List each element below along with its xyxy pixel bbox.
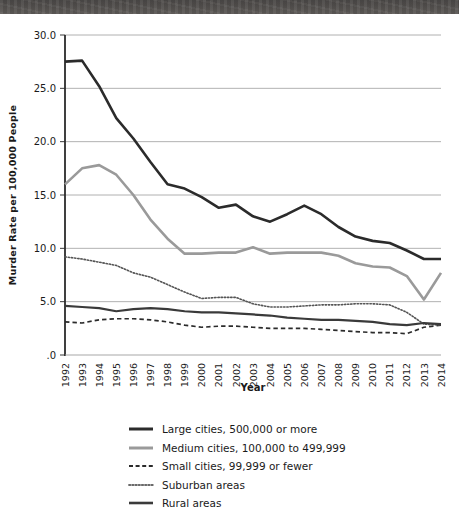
ytick-label-10.0: 10.0 [34,243,56,254]
xtick-label-2014: 2014 [436,363,447,387]
ytick-label-5.0: 5.0 [40,296,56,307]
ytick-label-30.0: 30.0 [34,30,56,41]
series-line-4 [65,306,441,325]
xtick-label-2007: 2007 [316,363,327,387]
xtick-label-2005: 2005 [282,363,293,387]
xtick-label-1994: 1994 [94,363,105,387]
xtick-label-2011: 2011 [384,363,395,387]
xtick-label-2010: 2010 [367,363,378,387]
xtick-label-2009: 2009 [350,363,361,387]
xtick-label-2001: 2001 [213,363,224,387]
xtick-label-2008: 2008 [333,363,344,387]
series-line-0 [65,61,441,259]
xtick-label-1996: 1996 [128,363,139,387]
legend-item: Large cities, 500,000 or more [128,420,428,439]
legend-line-icon [128,497,154,509]
xtick-label-2000: 2000 [196,363,207,387]
xtick-label-1993: 1993 [77,363,88,387]
xtick-label-2013: 2013 [419,363,430,387]
xtick-label-2012: 2012 [401,363,412,387]
ytick-label-.0: .0 [46,350,56,361]
legend-line-icon [128,479,154,491]
legend-item: Small cities, 99,999 or fewer [128,457,428,476]
legend-item-label: Medium cities, 100,000 to 499,999 [162,442,346,454]
xtick-label-1999: 1999 [179,363,190,387]
x-axis-title: Year [240,382,266,393]
legend-item-label: Rural areas [162,497,221,509]
chart-page: 30.025.020.015.010.05.0.0199219931994199… [0,0,459,531]
chart-legend: Large cities, 500,000 or moreMedium citi… [128,420,428,513]
legend-item-label: Large cities, 500,000 or more [162,423,317,435]
series-line-2 [65,319,441,334]
y-axis-title: Murder Rate per 100,000 People [7,105,18,285]
legend-item: Medium cities, 100,000 to 499,999 [128,439,428,458]
xtick-label-1997: 1997 [145,363,156,387]
chart-canvas: 30.025.020.015.010.05.0.0199219931994199… [0,16,459,396]
series-line-1 [65,165,441,299]
scan-artifact-band [0,0,459,14]
xtick-label-1995: 1995 [111,363,122,387]
legend-line-icon [128,460,154,472]
murder-rate-line-chart: 30.025.020.015.010.05.0.0199219931994199… [0,16,459,396]
ytick-label-15.0: 15.0 [34,190,56,201]
ytick-label-25.0: 25.0 [34,83,56,94]
legend-item: Rural areas [128,494,428,513]
legend-line-icon [128,442,154,454]
legend-line-icon [128,423,154,435]
legend-item-label: Suburban areas [162,479,245,491]
xtick-label-1992: 1992 [60,363,71,387]
xtick-label-2004: 2004 [265,363,276,387]
xtick-label-2006: 2006 [299,363,310,387]
legend-item: Suburban areas [128,476,428,495]
xtick-label-1998: 1998 [162,363,173,387]
legend-item-label: Small cities, 99,999 or fewer [162,460,313,472]
ytick-label-20.0: 20.0 [34,136,56,147]
